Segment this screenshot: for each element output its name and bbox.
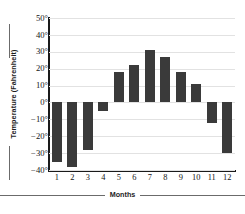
x-axis-title-rule-left <box>0 195 105 196</box>
x-axis-title-rule-right <box>140 195 245 196</box>
y-axis-tick-label: −40° <box>22 166 48 175</box>
gridline <box>49 170 235 171</box>
y-axis-title: Temperature (Fahrenheit) <box>8 29 20 159</box>
x-axis-tick-label: 2 <box>65 173 81 183</box>
y-axis-tick-label: 40° <box>22 31 48 40</box>
x-axis-tick-label: 12 <box>220 173 236 183</box>
x-axis-tick-label: 8 <box>158 173 174 183</box>
x-axis-tick-label: 3 <box>80 173 96 183</box>
bar <box>176 72 186 102</box>
bar <box>160 57 170 103</box>
y-axis-tick-label: 50° <box>22 14 48 23</box>
x-axis-tick-label: 1 <box>49 173 65 183</box>
bar-series <box>49 18 235 170</box>
y-axis-tick-label: 20° <box>22 64 48 73</box>
y-axis-tick-label: −30° <box>22 149 48 158</box>
x-axis-tick-label: 9 <box>173 173 189 183</box>
bar <box>222 102 232 153</box>
plot-area <box>49 18 235 170</box>
temperature-bar-chart: Temperature (Fahrenheit) 50°40°30°20°10°… <box>0 0 245 214</box>
x-axis-tick-label: 7 <box>142 173 158 183</box>
x-axis-tick-label: 6 <box>127 173 143 183</box>
x-axis-tick-labels: 123456789101112 <box>49 173 235 185</box>
y-axis-tick-label: −10° <box>22 115 48 124</box>
bar <box>83 102 93 149</box>
bar <box>98 102 108 110</box>
x-axis-tick-label: 10 <box>189 173 205 183</box>
bar <box>67 102 77 166</box>
bar <box>129 65 139 102</box>
y-axis-tick-label: 0° <box>22 98 48 107</box>
bar <box>145 50 155 102</box>
bar <box>207 102 217 122</box>
x-axis-tick-label: 11 <box>204 173 220 183</box>
y-axis-tick-label: −20° <box>22 132 48 141</box>
bar <box>52 102 62 161</box>
bar <box>114 72 124 102</box>
x-axis-title: Months <box>105 189 141 201</box>
x-axis-tick-label: 5 <box>111 173 127 183</box>
bar <box>191 84 201 103</box>
y-axis-tick-labels: 50°40°30°20°10°0°−10°−20°−30°−40° <box>22 18 48 170</box>
y-axis-tick-label: 10° <box>22 81 48 90</box>
y-axis-tick-label: 30° <box>22 47 48 56</box>
x-axis-tick-label: 4 <box>96 173 112 183</box>
x-axis-title-row: Months <box>0 189 245 201</box>
